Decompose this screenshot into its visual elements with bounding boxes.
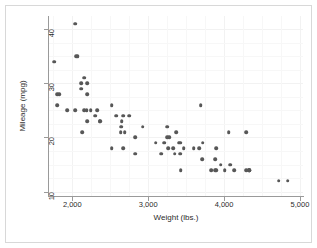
data-point: [76, 54, 80, 58]
data-point: [120, 125, 124, 129]
x-axis-line: [48, 196, 304, 197]
data-point: [96, 109, 100, 113]
x-tick-label: 2,000: [63, 200, 82, 209]
data-point: [119, 130, 123, 134]
gridline-horizontal-minor: [48, 43, 303, 44]
data-point: [199, 103, 203, 107]
data-point: [200, 157, 204, 161]
y-axis-line: [48, 16, 49, 197]
data-point: [213, 157, 217, 161]
data-point: [215, 146, 219, 150]
data-point: [121, 146, 125, 150]
data-point: [123, 130, 127, 134]
data-point: [74, 109, 78, 113]
data-point: [110, 146, 114, 150]
x-tick-label: 4,000: [215, 200, 234, 209]
data-point: [154, 141, 158, 145]
data-point: [171, 146, 175, 150]
data-point: [133, 152, 137, 156]
data-point: [192, 146, 196, 150]
gridline-horizontal-minor: [48, 124, 303, 125]
data-point: [182, 146, 186, 150]
data-point: [93, 114, 97, 118]
data-point: [244, 130, 248, 134]
gridline-horizontal-minor: [48, 165, 303, 166]
data-point: [209, 168, 213, 172]
data-point: [228, 163, 232, 167]
data-point: [178, 141, 182, 145]
data-point: [83, 76, 87, 80]
data-point: [214, 168, 218, 172]
data-point: [162, 141, 166, 145]
x-axis-title: Weight (lbs.): [154, 213, 199, 222]
data-point: [80, 130, 84, 134]
data-point: [80, 87, 84, 91]
data-point: [232, 168, 236, 172]
data-point: [227, 130, 231, 134]
y-tick-label: 20: [47, 137, 56, 145]
data-point: [201, 141, 205, 145]
data-point: [86, 92, 90, 96]
data-point: [52, 60, 56, 64]
data-point: [141, 125, 145, 129]
data-point: [277, 179, 281, 183]
chart-figure: 2,0003,0004,0005,000 10203040 Weight (lb…: [0, 0, 317, 248]
data-point: [179, 168, 183, 172]
data-point: [55, 103, 59, 107]
gridline-horizontal: [48, 29, 303, 30]
data-point: [86, 81, 90, 85]
y-axis-title: Mileage (mpg): [18, 80, 27, 131]
gridline-horizontal-minor: [48, 70, 303, 71]
x-tick-label: 5,000: [291, 200, 310, 209]
data-point: [159, 152, 163, 156]
data-point: [168, 136, 172, 140]
data-point: [120, 119, 124, 123]
data-point: [89, 109, 93, 113]
data-point: [178, 152, 182, 156]
data-point: [127, 114, 131, 118]
data-point: [110, 103, 114, 107]
data-point: [115, 114, 119, 118]
data-point: [166, 146, 170, 150]
plot-area: [48, 16, 303, 196]
data-point: [79, 81, 83, 85]
y-tick-label: 40: [47, 29, 56, 37]
gridline-horizontal-minor: [48, 56, 303, 57]
gridline-horizontal-minor: [48, 178, 303, 179]
data-point: [121, 114, 125, 118]
gridline-horizontal: [48, 192, 303, 193]
data-point: [173, 152, 177, 156]
gridline-horizontal: [48, 137, 303, 138]
data-point: [286, 179, 290, 183]
data-point: [58, 92, 62, 96]
x-tick-label: 3,000: [139, 200, 158, 209]
data-point: [223, 168, 227, 172]
gridline-horizontal-minor: [48, 97, 303, 98]
y-tick-label: 10: [47, 192, 56, 200]
data-point: [174, 130, 178, 134]
data-point: [65, 109, 69, 113]
data-point: [219, 163, 223, 167]
data-point: [197, 146, 201, 150]
data-point: [133, 136, 137, 140]
data-point: [86, 119, 90, 123]
data-point: [99, 119, 103, 123]
data-point: [74, 22, 78, 26]
data-point: [247, 168, 251, 172]
data-point: [165, 125, 169, 129]
y-tick-label: 30: [47, 83, 56, 91]
